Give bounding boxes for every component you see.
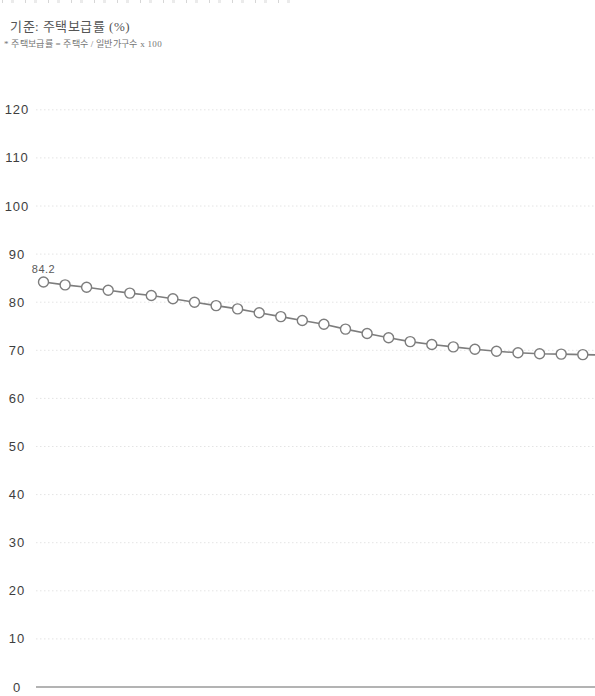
data-point-marker bbox=[556, 349, 566, 359]
data-point-marker bbox=[448, 342, 458, 352]
data-point-marker bbox=[492, 346, 502, 356]
data-point-marker bbox=[362, 329, 372, 339]
data-point-marker bbox=[470, 344, 480, 354]
y-tick-label: 0 bbox=[13, 680, 21, 695]
data-point-marker bbox=[125, 288, 135, 298]
y-tick-label: 20 bbox=[9, 583, 25, 598]
data-point-marker bbox=[535, 349, 545, 359]
chart-page: 기준: 주택보급률 (%) * 주택보급률 = 주택수 / 일반가구수 x 10… bbox=[0, 0, 595, 696]
data-point-marker bbox=[103, 285, 113, 295]
data-point-marker bbox=[513, 348, 523, 358]
data-point-marker bbox=[233, 304, 243, 314]
data-point-marker bbox=[190, 297, 200, 307]
y-tick-label: 110 bbox=[5, 150, 29, 165]
y-tick-label: 60 bbox=[9, 391, 25, 406]
y-tick-label: 100 bbox=[5, 199, 30, 214]
data-point-marker bbox=[578, 350, 588, 360]
y-tick-label: 90 bbox=[9, 247, 25, 262]
data-point-marker bbox=[405, 337, 415, 347]
data-point-marker bbox=[39, 277, 49, 287]
data-point-marker bbox=[384, 333, 394, 343]
data-point-marker bbox=[319, 319, 329, 329]
data-point-marker bbox=[341, 324, 351, 334]
data-point-marker bbox=[427, 340, 437, 350]
data-point-marker bbox=[254, 308, 264, 318]
first-point-value-label: 84.2 bbox=[32, 263, 55, 275]
data-point-marker bbox=[297, 316, 307, 326]
y-tick-label: 70 bbox=[9, 343, 25, 358]
housing-supply-line-chart: 120110100908070605040302010084.2 bbox=[0, 0, 595, 696]
data-point-marker bbox=[168, 294, 178, 304]
y-tick-label: 80 bbox=[9, 295, 25, 310]
data-point-marker bbox=[60, 280, 70, 290]
data-point-marker bbox=[276, 312, 286, 322]
data-point-marker bbox=[211, 301, 221, 311]
data-point-marker bbox=[82, 282, 92, 292]
y-tick-label: 40 bbox=[9, 487, 25, 502]
data-point-marker bbox=[146, 291, 156, 301]
y-tick-label: 10 bbox=[9, 631, 25, 646]
y-tick-label: 30 bbox=[9, 535, 25, 550]
y-tick-label: 50 bbox=[9, 439, 25, 454]
y-tick-label: 120 bbox=[5, 102, 30, 117]
